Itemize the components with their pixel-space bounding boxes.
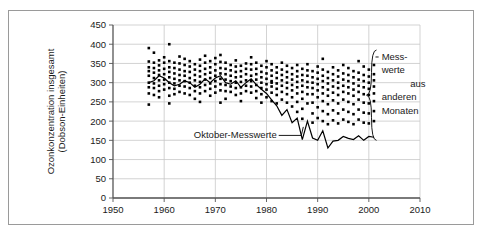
scatter-point <box>250 91 253 94</box>
scatter-point <box>316 71 319 74</box>
scatter-point <box>148 47 151 50</box>
scatter-point <box>235 87 238 90</box>
scatter-point <box>265 83 268 86</box>
scatter-point <box>163 88 166 91</box>
scatter-point <box>281 79 284 82</box>
scatter-point <box>265 72 268 75</box>
scatter-point <box>362 65 365 68</box>
y-tick-label: 400 <box>90 39 106 50</box>
scatter-point <box>316 65 319 68</box>
scatter-point <box>327 77 330 80</box>
scatter-point <box>153 67 156 70</box>
scatter-point <box>296 81 299 84</box>
scatter-point <box>235 65 238 68</box>
scatter-point <box>168 102 171 105</box>
scatter-point <box>373 110 376 113</box>
scatter-point <box>224 61 227 64</box>
scatter-point <box>173 82 176 85</box>
scatter-point <box>311 70 314 73</box>
scatter-point <box>342 72 345 75</box>
scatter-point <box>332 66 335 69</box>
scatter-point <box>199 64 202 67</box>
scatter-point <box>373 120 376 123</box>
scatter-point <box>204 68 207 71</box>
scatter-point <box>368 81 371 84</box>
scatter-point <box>173 78 176 81</box>
scatter-point <box>332 73 335 76</box>
scatter-point <box>245 73 248 76</box>
scatter-point <box>148 60 151 63</box>
scatter-point <box>296 101 299 104</box>
scatter-point <box>311 112 314 115</box>
scatter-point <box>342 64 345 67</box>
scatter-point <box>342 84 345 87</box>
scatter-point <box>321 92 324 95</box>
scatter-point <box>188 77 191 80</box>
scatter-point <box>316 78 319 81</box>
scatter-point <box>219 72 222 75</box>
scatter-point <box>148 66 151 69</box>
scatter-point <box>240 81 243 84</box>
scatter-point <box>306 86 309 89</box>
y-tick-label: 200 <box>90 116 106 127</box>
scatter-point <box>209 60 212 63</box>
scatter-point <box>194 79 197 82</box>
scatter-point <box>183 85 186 88</box>
scatter-point <box>188 71 191 74</box>
scatter-point <box>321 86 324 89</box>
scatter-point <box>362 80 365 83</box>
scatter-point <box>337 112 340 115</box>
scatter-point <box>153 87 156 90</box>
scatter-point <box>368 75 371 78</box>
scatter-point <box>357 84 360 87</box>
scatter-point <box>347 74 350 77</box>
x-tick-label: 1990 <box>307 204 328 215</box>
scatter-point <box>270 81 273 84</box>
x-tick-label: 2000 <box>358 204 379 215</box>
scatter-point <box>291 84 294 87</box>
scatter-point <box>275 66 278 69</box>
x-tick-label: 1960 <box>154 204 175 215</box>
scatter-point <box>173 88 176 91</box>
scatter-point <box>362 101 365 104</box>
scatter-point <box>342 98 345 101</box>
scatter-point <box>368 122 371 125</box>
scatter-point <box>204 90 207 93</box>
scatter-point <box>347 101 350 104</box>
scatter-point <box>296 75 299 78</box>
scatter-point <box>229 91 232 94</box>
scatter-point <box>173 67 176 70</box>
scatter-point <box>311 121 314 124</box>
scatter-point <box>373 100 376 103</box>
scatter-point <box>163 83 166 86</box>
scatter-point <box>188 65 191 68</box>
scatter-point <box>209 94 212 97</box>
scatter-point <box>281 91 284 94</box>
scatter-point <box>311 76 314 79</box>
scatter-point <box>209 71 212 74</box>
scatter-point <box>352 103 355 106</box>
scatter-point <box>188 87 191 90</box>
scatter-point <box>306 69 309 72</box>
scatter-point <box>270 91 273 94</box>
scatter-point <box>229 69 232 72</box>
scatter-point <box>332 119 335 122</box>
scatter-point <box>321 100 324 103</box>
scatter-point <box>245 90 248 93</box>
scatter-point <box>301 108 304 111</box>
scatter-point <box>240 64 243 67</box>
scatter-point <box>362 74 365 77</box>
scatter-point <box>229 80 232 83</box>
scatter-point <box>286 81 289 84</box>
scatter-point <box>301 68 304 71</box>
scatter-point <box>332 79 335 82</box>
scatter-point <box>316 83 319 86</box>
scatter-point <box>163 73 166 76</box>
scatter-point <box>168 87 171 90</box>
scatter-point <box>373 92 376 95</box>
scatter-point <box>250 63 253 66</box>
scatter-point <box>250 74 253 77</box>
scatter-point <box>337 75 340 78</box>
y-tick-label: 150 <box>90 135 106 146</box>
scatter-point <box>158 84 161 87</box>
